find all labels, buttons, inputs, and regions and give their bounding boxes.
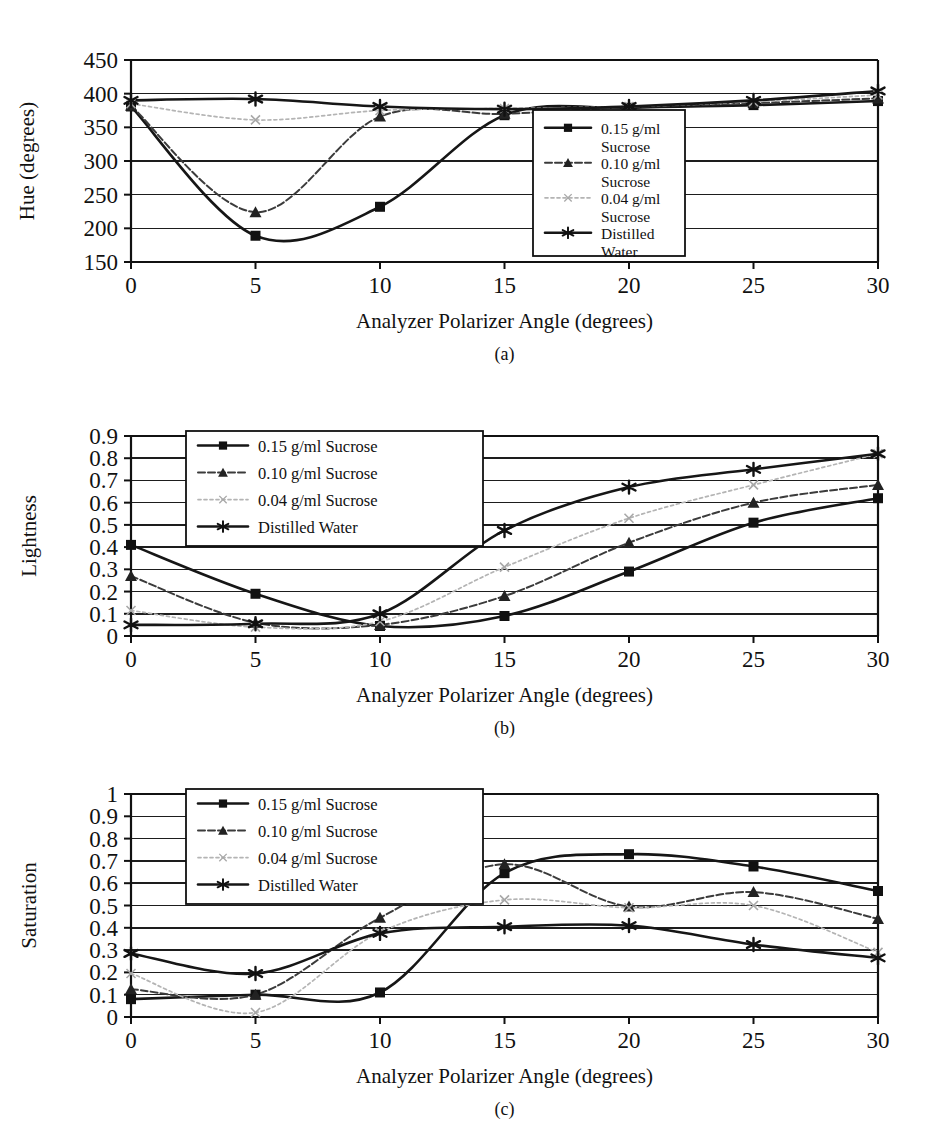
svg-text:10: 10 — [369, 273, 392, 298]
legend-label-water: Distilled Water — [258, 518, 358, 537]
chart-panel-b: 00.10.20.30.40.50.60.70.80.9051015202530… — [0, 398, 940, 748]
chart-legend: 0.15 g/ml Sucrose0.10 g/ml Sucrose0.04 g… — [186, 789, 483, 904]
legend-marker-filled-square-icon — [219, 441, 227, 449]
plot-axes — [124, 60, 878, 269]
svg-text:0: 0 — [125, 273, 137, 298]
legend-label-s010: 0.10 g/ml Sucrose — [258, 822, 378, 841]
legend-label-s004-line2: Sucrose — [601, 208, 650, 225]
svg-text:5: 5 — [250, 647, 262, 672]
y-axis-tick-labels: 00.10.20.30.40.50.60.70.80.9 — [89, 424, 118, 649]
svg-text:250: 250 — [84, 183, 119, 208]
svg-text:0.9: 0.9 — [89, 424, 118, 449]
panel-caption-c: (c) — [495, 1099, 515, 1120]
svg-text:0.1: 0.1 — [89, 983, 118, 1008]
legend-label-s010-line2: Sucrose — [601, 173, 650, 190]
svg-text:0.8: 0.8 — [89, 446, 118, 471]
figure-root: 150200250300350400450051015202530Hue (de… — [0, 0, 940, 1142]
svg-text:450: 450 — [84, 48, 119, 73]
legend-label-water: Distilled Water — [258, 876, 358, 895]
y-axis-tick-labels: 150200250300350400450 — [84, 48, 119, 275]
gridlines — [131, 60, 878, 262]
y-axis-title: Hue (degrees) — [15, 102, 39, 220]
svg-text:0.7: 0.7 — [89, 468, 118, 493]
svg-text:0.1: 0.1 — [89, 602, 118, 627]
legend-label-s004: 0.04 g/ml Sucrose — [258, 849, 378, 868]
legend-label-s015: 0.15 g/ml Sucrose — [258, 437, 378, 456]
svg-text:400: 400 — [84, 82, 119, 107]
svg-text:0.4: 0.4 — [89, 535, 118, 560]
svg-text:0: 0 — [107, 624, 119, 649]
svg-text:0.3: 0.3 — [89, 938, 118, 963]
svg-text:15: 15 — [493, 1028, 516, 1053]
data-point-s004-25 — [749, 480, 758, 489]
x-axis-tick-labels: 051015202530 — [125, 1028, 889, 1053]
svg-text:25: 25 — [742, 647, 765, 672]
saturation-line-chart: 00.10.20.30.40.50.60.70.80.9105101520253… — [0, 748, 940, 1128]
svg-text:0.5: 0.5 — [89, 513, 118, 538]
svg-text:300: 300 — [84, 149, 119, 174]
data-point-s015-0 — [126, 994, 136, 1004]
legend-label-s015-line2: Sucrose — [601, 138, 650, 155]
data-point-s015-20 — [624, 849, 634, 859]
legend-label-s015: 0.15 g/ml — [601, 120, 660, 137]
svg-text:25: 25 — [742, 273, 765, 298]
legend-label-s015: 0.15 g/ml Sucrose — [258, 795, 378, 814]
data-point-s010-20 — [623, 537, 635, 548]
legend-marker-filled-square-icon — [219, 799, 227, 807]
data-point-s010-10 — [374, 912, 386, 923]
svg-text:30: 30 — [867, 273, 890, 298]
svg-text:20: 20 — [618, 647, 641, 672]
svg-text:0.2: 0.2 — [89, 580, 118, 605]
x-axis-title: Analyzer Polarizer Angle (degrees) — [356, 1064, 653, 1088]
chart-panel-c: 00.10.20.30.40.50.60.70.80.9105101520253… — [0, 748, 940, 1128]
data-point-s004-15 — [500, 563, 509, 572]
svg-text:25: 25 — [742, 1028, 765, 1053]
data-point-s004-20 — [625, 514, 634, 523]
svg-text:1: 1 — [107, 782, 119, 807]
svg-text:20: 20 — [618, 1028, 641, 1053]
data-point-s015-10 — [375, 987, 385, 997]
chart-legend: 0.15 g/mlSucrose0.10 g/mlSucrose0.04 g/m… — [533, 110, 685, 260]
svg-text:0.6: 0.6 — [89, 871, 118, 896]
x-axis-title: Analyzer Polarizer Angle (degrees) — [356, 683, 653, 707]
chart-legend: 0.15 g/ml Sucrose0.10 g/ml Sucrose0.04 g… — [186, 431, 483, 546]
x-axis-title: Analyzer Polarizer Angle (degrees) — [356, 309, 653, 333]
y-axis-tick-labels: 00.10.20.30.40.50.60.70.80.91 — [89, 782, 118, 1030]
data-point-s015-20 — [624, 567, 634, 577]
svg-text:10: 10 — [369, 647, 392, 672]
x-axis-tick-labels: 051015202530 — [125, 647, 889, 672]
lightness-line-chart: 00.10.20.30.40.50.60.70.80.9051015202530… — [0, 398, 940, 748]
panel-caption-b: (b) — [494, 718, 515, 739]
legend-marker-filled-square-icon — [564, 124, 572, 132]
svg-text:15: 15 — [493, 647, 516, 672]
svg-text:200: 200 — [84, 216, 119, 241]
x-axis-tick-labels: 051015202530 — [125, 273, 889, 298]
svg-text:0.5: 0.5 — [89, 894, 118, 919]
svg-text:5: 5 — [250, 273, 262, 298]
svg-text:0.3: 0.3 — [89, 557, 118, 582]
svg-text:0.9: 0.9 — [89, 804, 118, 829]
data-point-s015-25 — [749, 518, 759, 528]
svg-text:0.2: 0.2 — [89, 960, 118, 985]
data-point-s015-30 — [873, 886, 883, 896]
data-series-group — [125, 84, 885, 241]
svg-text:0: 0 — [107, 1005, 119, 1030]
svg-text:0.7: 0.7 — [89, 849, 118, 874]
y-axis-title: Saturation — [17, 862, 41, 949]
svg-text:0: 0 — [125, 647, 137, 672]
chart-panel-a: 150200250300350400450051015202530Hue (de… — [0, 14, 940, 384]
data-point-s015-10 — [375, 202, 385, 212]
data-point-s015-15 — [500, 868, 510, 878]
data-point-s015-15 — [500, 611, 510, 621]
svg-text:10: 10 — [369, 1028, 392, 1053]
hue-line-chart: 150200250300350400450051015202530Hue (de… — [0, 14, 940, 384]
svg-text:5: 5 — [250, 1028, 262, 1053]
svg-text:0: 0 — [125, 1028, 137, 1053]
series-line-s015 — [131, 101, 878, 241]
data-point-s010-0 — [125, 570, 137, 581]
svg-text:350: 350 — [84, 115, 119, 140]
svg-text:30: 30 — [867, 647, 890, 672]
legend-label-water-line2: Water — [601, 243, 638, 260]
data-point-water-15 — [498, 524, 511, 537]
legend-label-s010: 0.10 g/ml — [601, 155, 660, 172]
